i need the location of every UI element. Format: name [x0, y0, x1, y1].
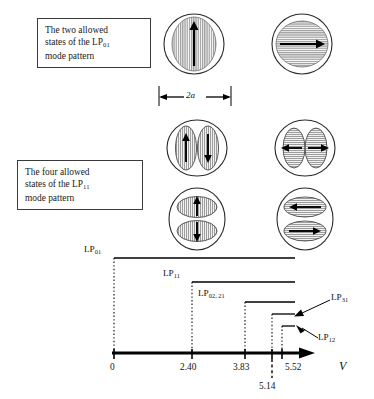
series-label-lp12: LP12 — [318, 332, 335, 342]
tick-label-552: 5.52 — [285, 362, 301, 372]
mode-pattern-lp01-vertical — [158, 8, 230, 80]
series-label-lp11-text: LP — [163, 268, 174, 278]
tick-label-383: 3.83 — [233, 362, 249, 372]
series-label-lp31: LP31 — [331, 292, 348, 302]
tick-label-514: 5.14 — [259, 381, 275, 391]
series-label-lp12-sub: 12 — [329, 336, 335, 343]
caption-lp11-line1: The four allowed — [25, 166, 135, 178]
series-label-lp12-text: LP — [318, 332, 329, 342]
leader-arrow-lp31 — [294, 310, 304, 317]
caption-lp01-line2-sub: 01 — [103, 41, 110, 48]
series-label-lp31-sub: 31 — [342, 296, 348, 303]
caption-lp01-line2-text: states of the LP — [45, 37, 103, 47]
series-label-lp01: LP01 — [84, 244, 101, 254]
leader-line-lp12 — [302, 328, 318, 338]
caption-lp11-line2-text: states of the LP — [25, 179, 83, 189]
series-label-lp11-sub: 11 — [174, 272, 180, 279]
x-axis-arrowhead — [299, 348, 315, 359]
series-label-lp01-sub: 01 — [95, 248, 101, 255]
series-label-lp01-text: LP — [84, 244, 95, 254]
caption-box-lp11: The four allowed states of the LP11 mode… — [17, 160, 143, 210]
x-axis-label: V — [339, 359, 346, 374]
series-label-lp0221-text: LP — [198, 288, 209, 298]
caption-lp01-line2: states of the LP01 — [45, 36, 143, 49]
caption-lp11-line3: mode pattern — [25, 192, 135, 204]
caption-lp11-line2-sub: 11 — [83, 183, 89, 190]
tick-label-240: 2.40 — [180, 362, 196, 372]
series-label-lp0221-sub: 02, 21 — [209, 292, 225, 299]
series-label-lp0221: LP02, 21 — [198, 288, 225, 298]
series-label-lp31-text: LP — [331, 292, 342, 302]
caption-lp01-line3: mode pattern — [45, 50, 143, 62]
caption-lp11-line2: states of the LP11 — [25, 178, 135, 191]
caption-lp01-line1: The two allowed — [45, 24, 143, 36]
dimension-2a-label: 2a — [186, 90, 195, 100]
dimension-2a — [156, 84, 234, 110]
tick-label-0: 0 — [110, 362, 115, 372]
series-label-lp11: LP11 — [163, 268, 180, 278]
leader-line-lp31 — [300, 300, 330, 314]
mode-pattern-lp01-horizontal — [266, 8, 338, 80]
caption-box-lp01: The two allowed states of the LP01 mode … — [37, 18, 151, 68]
mode-pattern-lp11-vertical-lobes-horizontal-arrows — [266, 118, 344, 178]
figure-lp-modes: The two allowed states of the LP01 mode … — [0, 0, 374, 399]
mode-pattern-lp11-vertical-lobes-vertical-arrows — [158, 118, 236, 178]
mode-cutoff-chart: LP01 LP11 LP02, 21 LP31 LP12 0 2.40 3.83… — [0, 238, 374, 399]
chart-graphics — [0, 238, 374, 399]
